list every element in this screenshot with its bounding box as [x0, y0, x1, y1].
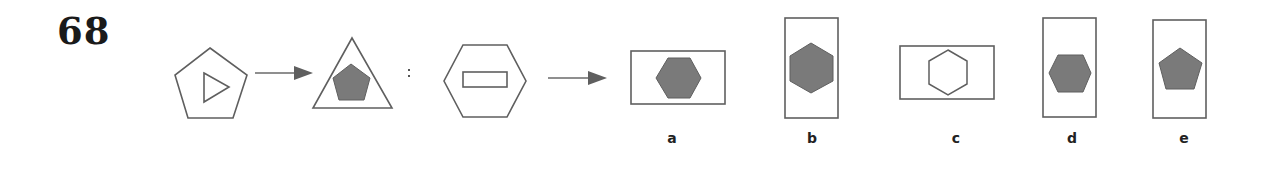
outer-pentagon	[175, 48, 247, 118]
analogy-figure	[0, 0, 1281, 181]
outer-hexagon	[444, 45, 526, 117]
option-e-figure[interactable]	[1153, 20, 1206, 118]
outline-hexagon-pointy	[929, 50, 967, 95]
option-label-b[interactable]: b	[802, 130, 822, 146]
inner-rectangle	[463, 72, 507, 87]
option-label-e[interactable]: e	[1174, 130, 1194, 146]
analogy-separator-colon	[408, 69, 410, 77]
inner-filled-pentagon	[333, 64, 370, 100]
option-d-figure[interactable]	[1043, 18, 1096, 117]
option-label-c[interactable]: c	[946, 130, 966, 146]
filled-hexagon-flat	[1049, 55, 1091, 92]
filled-pentagon	[1159, 48, 1202, 89]
filled-hexagon-pointy	[790, 43, 833, 93]
option-label-d[interactable]: d	[1062, 130, 1082, 146]
inner-triangle-right	[204, 73, 229, 102]
arrow-1	[255, 66, 313, 80]
filled-hexagon-flat	[656, 58, 701, 98]
arrow-2	[548, 71, 607, 85]
target-figure	[444, 45, 526, 117]
option-c-figure[interactable]	[900, 46, 994, 99]
option-label-a[interactable]: a	[662, 130, 682, 146]
option-a-figure[interactable]	[631, 51, 725, 104]
option-b-figure[interactable]	[785, 18, 838, 118]
source-figure	[175, 48, 247, 118]
source-result-figure	[313, 38, 392, 108]
